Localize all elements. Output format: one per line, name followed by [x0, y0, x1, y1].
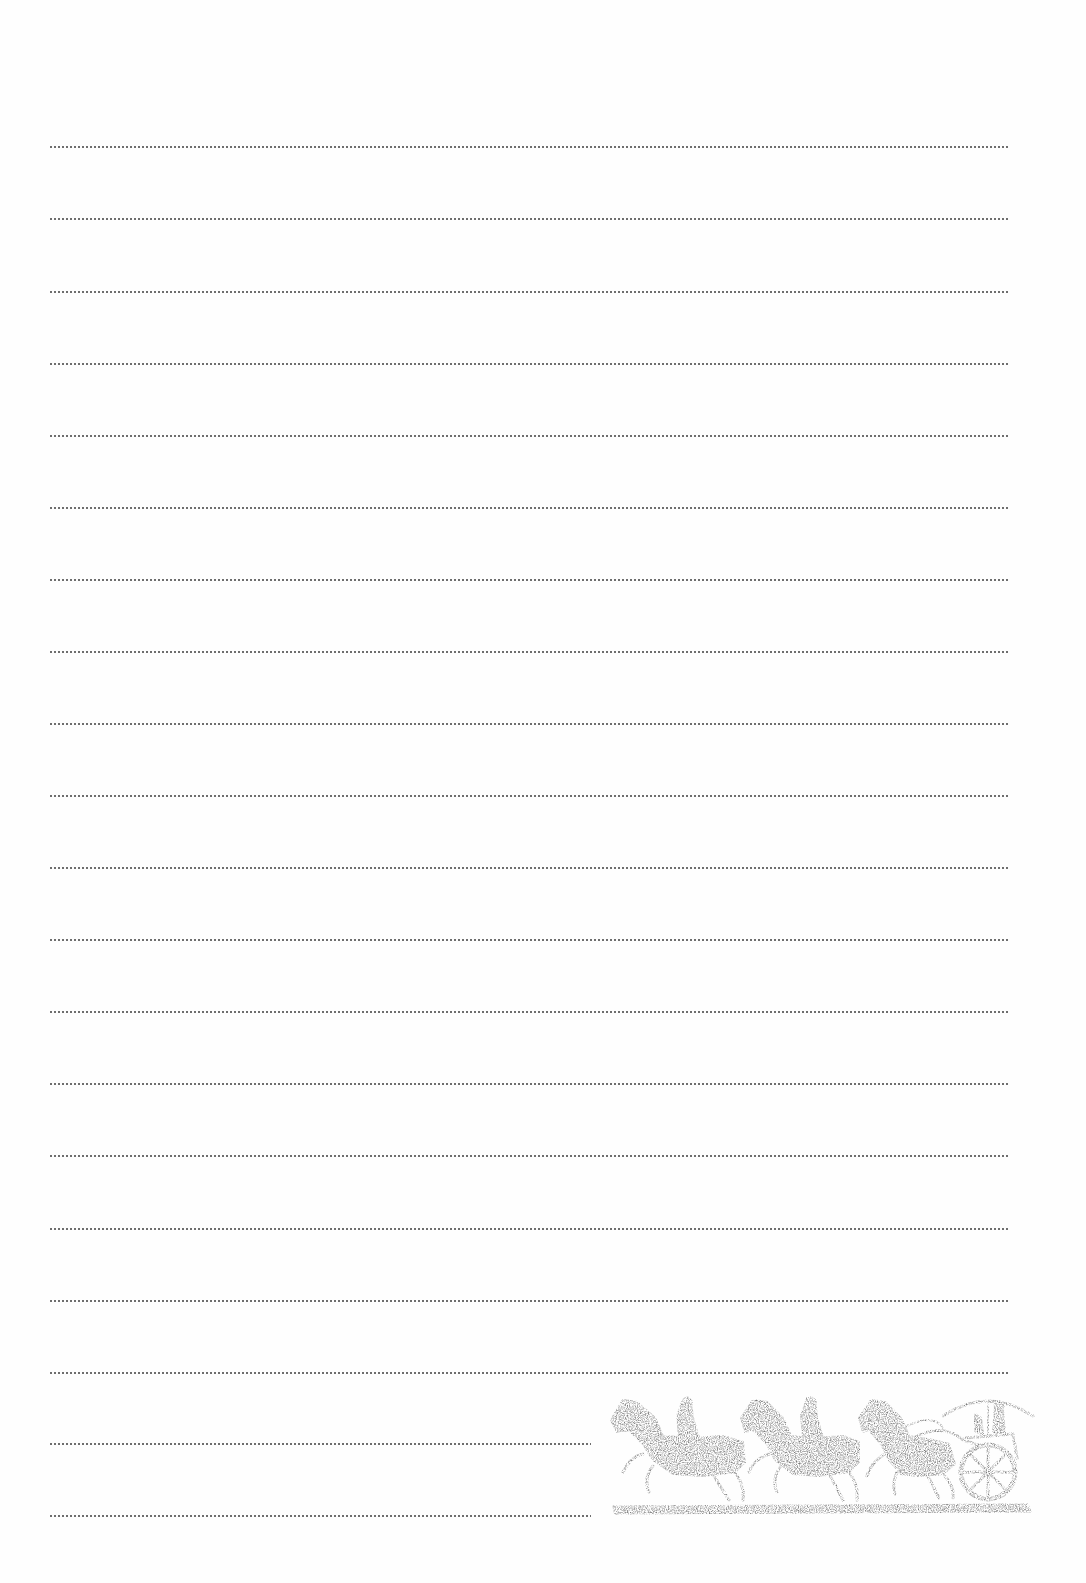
horse-rider-1 — [611, 1397, 745, 1500]
chariot — [943, 1401, 1033, 1499]
writing-paper — [0, 0, 1086, 1583]
ruled-line — [49, 1155, 1010, 1157]
rubbing-art-icon — [603, 1388, 1038, 1520]
ruled-line — [49, 723, 1010, 725]
ruled-line — [49, 363, 1010, 365]
ruled-line — [49, 291, 1010, 293]
ruled-line — [49, 1515, 591, 1517]
ruled-line — [49, 795, 1010, 797]
ruled-line — [49, 1011, 1010, 1013]
ruled-line — [49, 146, 1010, 148]
ruled-line — [49, 1300, 1010, 1302]
horse-chariot-rubbing-illustration — [603, 1388, 1038, 1520]
horse-rider-2 — [741, 1397, 859, 1500]
ruled-line — [49, 651, 1010, 653]
ruled-line — [49, 1083, 1010, 1085]
ruled-line — [49, 939, 1010, 941]
ruled-line — [49, 579, 1010, 581]
ground-pattern — [613, 1504, 1031, 1514]
ruled-line — [49, 1372, 1010, 1374]
ruled-line — [49, 218, 1010, 220]
ruled-line — [49, 867, 1010, 869]
ruled-line — [49, 435, 1010, 437]
ruled-line — [49, 1443, 591, 1445]
ruled-line — [49, 507, 1010, 509]
ruled-line — [49, 1228, 1010, 1230]
